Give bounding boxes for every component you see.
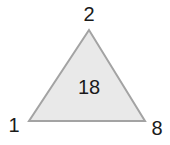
vertex-bottom-left-label: 1 <box>8 114 19 136</box>
center-value: 18 <box>78 76 100 98</box>
vertex-bottom-right-label: 8 <box>151 117 162 139</box>
triangle-diagram: 2 1 8 18 <box>0 0 170 145</box>
vertex-top-label: 2 <box>83 3 94 25</box>
